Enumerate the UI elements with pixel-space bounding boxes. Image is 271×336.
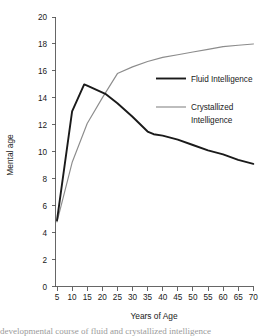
legend-label-crystallized-intelligence-line1: Crystallized — [191, 103, 234, 112]
x-tick-label: 60 — [219, 293, 229, 302]
x-tick-label: 35 — [143, 293, 153, 302]
x-tick-label: 10 — [68, 293, 78, 302]
x-tick-label: 70 — [249, 293, 259, 302]
y-tick-label: 14 — [38, 94, 48, 103]
x-tick-label: 30 — [128, 293, 138, 302]
x-tick-label: 20 — [98, 293, 108, 302]
y-tick-label: 12 — [38, 121, 48, 130]
y-tick-label: 18 — [38, 40, 48, 49]
x-tick-label: 65 — [234, 293, 244, 302]
y-tick-label: 4 — [42, 229, 47, 238]
y-tick-label: 2 — [42, 256, 47, 265]
x-tick-label: 40 — [158, 293, 168, 302]
y-axis-title: Mental age — [5, 134, 15, 176]
legend-label-crystallized-intelligence-line2: Intelligence — [191, 116, 233, 125]
figure-container: 20 18 16 14 12 10 8 6 4 2 0 — [0, 0, 271, 336]
line-chart: 20 18 16 14 12 10 8 6 4 2 0 — [0, 0, 271, 336]
legend-label-fluid-intelligence: Fluid Intelligence — [191, 75, 253, 84]
y-tick-label: 10 — [38, 148, 48, 157]
y-tick-label: 20 — [38, 13, 48, 22]
x-tick-label: 50 — [188, 293, 198, 302]
figure-caption: developmental course of fluid and crysta… — [0, 326, 211, 336]
x-tick-label: 45 — [173, 293, 183, 302]
x-tick-label: 15 — [83, 293, 93, 302]
x-tick-label: 55 — [203, 293, 213, 302]
chart-background — [0, 0, 271, 336]
y-tick-label: 8 — [42, 175, 47, 184]
y-tick-label: 16 — [38, 67, 48, 76]
y-tick-label: 6 — [42, 202, 47, 211]
y-tick-label: 0 — [42, 283, 47, 292]
x-axis-title: Years of Age — [130, 311, 178, 321]
x-tick-label: 25 — [113, 293, 123, 302]
x-tick-label: 5 — [55, 293, 60, 302]
